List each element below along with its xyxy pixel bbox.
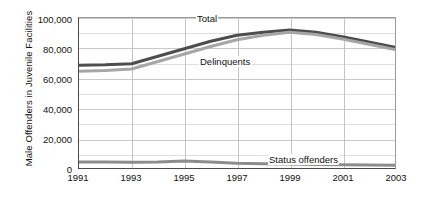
y-tick-label: 60,000 xyxy=(26,74,72,85)
x-tick-label: 1999 xyxy=(279,172,300,183)
series-line-status-offenders xyxy=(79,161,395,165)
chart-container: Male Offenders in Juvenile Facilities 0 … xyxy=(0,0,422,204)
plot-area xyxy=(78,17,396,169)
y-tick-label: 0 xyxy=(26,164,72,175)
x-tick-label: 1991 xyxy=(67,172,88,183)
x-tick-label: 1993 xyxy=(120,172,141,183)
y-tick-label: 20,000 xyxy=(26,134,72,145)
x-tick-label: 1995 xyxy=(173,172,194,183)
series-label-total: Total xyxy=(196,13,218,24)
y-axis-ticks: 0 20,000 40,000 60,000 80,000 100,000 xyxy=(24,0,72,204)
x-tick-label: 2003 xyxy=(385,172,406,183)
series-label-status-offenders: Status offenders xyxy=(268,154,339,165)
x-tick-label: 2001 xyxy=(332,172,353,183)
series-lines xyxy=(79,18,395,168)
y-tick-label: 40,000 xyxy=(26,104,72,115)
y-tick-label: 100,000 xyxy=(26,14,72,25)
series-label-delinquents: Delinquents xyxy=(199,56,251,67)
y-tick-label: 80,000 xyxy=(26,44,72,55)
x-tick-label: 1997 xyxy=(226,172,247,183)
